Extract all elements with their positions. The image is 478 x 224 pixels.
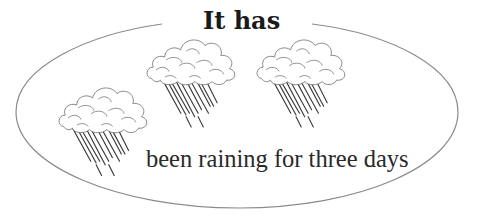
- rain-cloud-left: [59, 88, 147, 176]
- rain-cloud-middle: [147, 40, 235, 127]
- rain-cloud-right: [257, 40, 345, 127]
- rain-illustration: It has been raining for three days: [0, 0, 478, 224]
- illustration-title: It has: [203, 6, 280, 36]
- illustration-caption: been raining for three days: [146, 145, 409, 173]
